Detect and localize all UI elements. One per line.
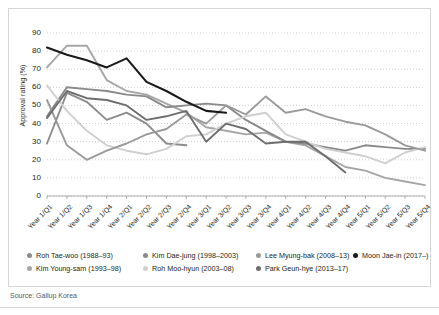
y-axis-tick-label: 10 <box>19 173 41 182</box>
legend-column: Kim Dae-jung (1998–2003)Roh Moo-hyun (20… <box>143 249 238 275</box>
y-axis-tick-label: 80 <box>19 46 41 55</box>
legend-item[interactable]: Kim Dae-jung (1998–2003) <box>143 249 238 262</box>
legend-label: Roh Tae-woo (1988–93) <box>36 251 113 260</box>
series-line <box>47 93 186 146</box>
legend-column: Roh Tae-woo (1988–93)Kim Young-sam (1993… <box>27 249 121 275</box>
y-axis-tick-label: 20 <box>19 155 41 164</box>
legend-item[interactable]: Park Geun-hye (2013–17) <box>256 262 349 275</box>
legend-dot-icon <box>27 266 32 271</box>
legend-column: Lee Myung-bak (2008–13)Park Geun-hye (20… <box>256 249 349 275</box>
legend-label: Kim Dae-jung (1998–2003) <box>152 251 238 260</box>
legend-label: Moon Jae-in (2017–) <box>362 251 428 260</box>
y-axis-tick-label: 30 <box>19 137 41 146</box>
plot-area: Approval rating (%) 0102030405060708090Y… <box>0 0 439 250</box>
source-note: Source: Gallup Korea <box>10 292 77 299</box>
y-axis-tick-label: 90 <box>19 28 41 37</box>
legend-column: Moon Jae-in (2017–) <box>353 249 428 262</box>
legend-label: Roh Moo-hyun (2003–08) <box>152 264 234 273</box>
legend-item[interactable]: Roh Tae-woo (1988–93) <box>27 249 121 262</box>
legend-item[interactable]: Kim Young-sam (1993–98) <box>27 262 121 275</box>
legend-label: Kim Young-sam (1993–98) <box>36 264 121 273</box>
y-axis-tick-label: 60 <box>19 82 41 91</box>
y-axis-tick-label: 40 <box>19 119 41 128</box>
legend-dot-icon <box>256 266 261 271</box>
legend-dot-icon <box>256 253 261 258</box>
figure-container: Approval rating (%) 0102030405060708090Y… <box>0 0 439 315</box>
legend-dot-icon <box>143 266 148 271</box>
chart-legend: Roh Tae-woo (1988–93)Kim Young-sam (1993… <box>17 249 427 281</box>
legend-dot-icon <box>27 253 32 258</box>
legend-label: Park Geun-hye (2013–17) <box>265 264 348 273</box>
y-axis-tick-label: 50 <box>19 100 41 109</box>
legend-item[interactable]: Roh Moo-hyun (2003–08) <box>143 262 238 275</box>
legend-dot-icon <box>143 253 148 258</box>
legend-item[interactable]: Moon Jae-in (2017–) <box>353 249 428 262</box>
legend-item[interactable]: Lee Myung-bak (2008–13) <box>256 249 349 262</box>
y-axis-tick-label: 0 <box>19 191 41 200</box>
legend-label: Lee Myung-bak (2008–13) <box>265 251 349 260</box>
series-line <box>47 96 425 159</box>
y-axis-tick-label: 70 <box>19 64 41 73</box>
bottom-divider <box>0 307 439 308</box>
series-line <box>47 91 345 173</box>
legend-dot-icon <box>353 253 358 258</box>
series-line <box>47 48 226 113</box>
